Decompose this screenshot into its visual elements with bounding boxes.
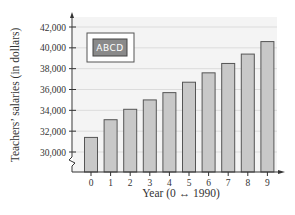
x-axis-arrow-icon	[278, 170, 285, 174]
bar	[163, 93, 176, 172]
bar	[202, 73, 215, 172]
x-tick-label: 1	[108, 178, 113, 188]
x-tick-label: 7	[226, 178, 231, 188]
y-tick-label: 36,000	[40, 85, 66, 95]
bar	[241, 54, 254, 172]
y-tick-label: 34,000	[40, 106, 66, 116]
bar	[222, 63, 235, 172]
bar	[183, 82, 196, 172]
x-tick-label: 0	[89, 178, 94, 188]
x-ticks: 0123456789	[89, 172, 270, 188]
y-ticks: 30,00032,00034,00036,00038,00040,00042,0…	[40, 23, 76, 158]
x-tick-label: 9	[265, 178, 270, 188]
x-axis-title: Year (0 ↔ 1990)	[142, 187, 220, 200]
bar	[104, 120, 117, 172]
y-axis-arrow-icon	[70, 12, 74, 18]
legend-box: ABCD	[87, 33, 134, 62]
y-tick-label: 40,000	[40, 43, 66, 53]
bar	[124, 109, 137, 172]
legend-label: ABCD	[96, 43, 123, 53]
y-tick-label: 32,000	[40, 127, 66, 137]
y-tick-label: 42,000	[40, 23, 66, 33]
y-tick-label: 30,000	[40, 148, 66, 158]
x-tick-label: 8	[245, 178, 250, 188]
bar-chart: ABCD 30,00032,00034,00036,00038,00040,00…	[0, 0, 295, 215]
y-axis-title: Teachers’ salaries (in dollars)	[9, 27, 22, 162]
bar	[85, 137, 98, 172]
y-tick-label: 38,000	[40, 64, 66, 74]
bar	[261, 42, 274, 172]
bar	[143, 100, 156, 172]
x-tick-label: 2	[128, 178, 133, 188]
